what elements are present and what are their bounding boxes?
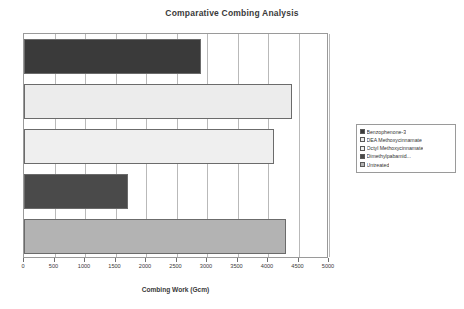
bar [24, 39, 201, 75]
bars-group [24, 34, 327, 257]
x-tick [176, 258, 177, 262]
x-tick [145, 258, 146, 262]
x-tick [298, 258, 299, 262]
legend-item-label: DEA Methoxycinnamate [367, 137, 422, 143]
x-tick-label: 0 [21, 263, 24, 269]
x-tick-label: 5000 [322, 263, 334, 269]
legend-swatch-icon [360, 129, 365, 134]
x-axis: 0500100015002000250030003500400045005000 [23, 258, 328, 272]
chart-container: Comparative Combing Analysis 05001000150… [0, 0, 464, 309]
x-tick-label: 3500 [230, 263, 242, 269]
legend-item[interactable]: Octyl Methoxycinnamate [360, 144, 452, 152]
legend-swatch-icon [360, 154, 365, 159]
legend-swatch-icon [360, 146, 365, 151]
legend-item-label: Octyl Methoxycinnamate [367, 145, 424, 151]
bar [24, 129, 274, 165]
x-tick-label: 2500 [169, 263, 181, 269]
bar [24, 219, 286, 255]
legend-item[interactable]: DEA Methoxycinnamate [360, 136, 452, 144]
x-tick-label: 500 [49, 263, 58, 269]
legend-item[interactable]: Untreated [360, 161, 452, 169]
x-tick-label: 2000 [139, 263, 151, 269]
x-tick-label: 3000 [200, 263, 212, 269]
legend-swatch-icon [360, 137, 365, 142]
legend-item-label: Dimethylpabamid... [367, 153, 411, 159]
x-tick-label: 1000 [78, 263, 90, 269]
bar [24, 84, 292, 120]
chart-legend: Benzophenone-3DEA MethoxycinnamateOctyl … [356, 124, 456, 173]
plot-area [23, 33, 328, 258]
x-tick [115, 258, 116, 262]
legend-item[interactable]: Dimethylpabamid... [360, 153, 452, 161]
x-tick [54, 258, 55, 262]
legend-item[interactable]: Benzophenone-3 [360, 128, 452, 136]
x-tick [23, 258, 24, 262]
x-tick [84, 258, 85, 262]
chart-title: Comparative Combing Analysis [0, 8, 464, 18]
x-axis-title: Combing Work (Gcm) [23, 286, 328, 293]
x-tick [206, 258, 207, 262]
legend-item-label: Benzophenone-3 [367, 129, 407, 135]
x-tick-label: 4000 [261, 263, 273, 269]
x-tick [237, 258, 238, 262]
x-tick-label: 1500 [108, 263, 120, 269]
legend-item-label: Untreated [367, 162, 390, 168]
bar [24, 174, 128, 210]
x-tick [328, 258, 329, 262]
x-tick [267, 258, 268, 262]
legend-swatch-icon [360, 162, 365, 167]
gridline-5000 [329, 34, 330, 257]
x-tick-label: 4500 [291, 263, 303, 269]
